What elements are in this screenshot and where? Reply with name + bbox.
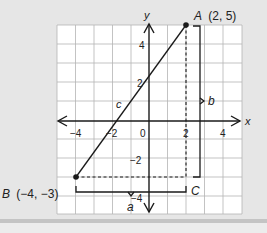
point-a-coords: (2, 5) [208, 9, 236, 23]
point-c-label: C [191, 184, 200, 198]
x-tick-label: 0 [140, 128, 146, 139]
panel-bottom-strip [0, 223, 267, 233]
coordinate-diagram: x y −4 −2 0 2 4 4 2 −2 −4 c A [0, 0, 267, 233]
bracket-a-label: a [127, 200, 134, 214]
point-a-name: A [193, 9, 202, 23]
x-tick-label: −4 [70, 128, 82, 139]
point-a [183, 22, 189, 28]
bracket-b-label: b [208, 94, 215, 108]
y-tick-label: 4 [139, 40, 145, 51]
point-b-coords: (−4, −3) [16, 187, 58, 201]
y-axis-label: y [143, 9, 151, 21]
y-tick-label: −2 [130, 155, 142, 166]
x-axis-label: x [244, 115, 251, 127]
segment-c-label: c [116, 98, 122, 110]
point-b [73, 174, 79, 180]
x-tick-label: 4 [220, 128, 226, 139]
point-b-name: B [2, 187, 10, 201]
point-b-label: B (−4, −3) [2, 187, 58, 201]
y-tick-label: 2 [137, 78, 143, 89]
point-a-label: A (2, 5) [193, 9, 236, 23]
